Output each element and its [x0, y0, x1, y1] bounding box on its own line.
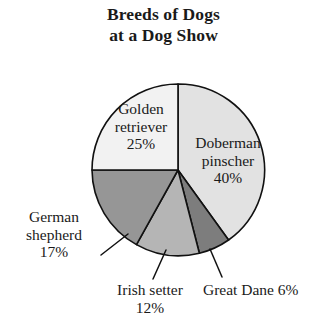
pie-label-golden-retriever-name-1: Golden	[104, 100, 178, 118]
pie-label-german-shepherd: German shepherd 17%	[6, 208, 102, 261]
pie-label-doberman-pinscher: Doberman pinscher 40%	[183, 134, 273, 187]
pie-label-doberman-pinscher-name-1: Doberman	[183, 134, 273, 152]
pie-label-german-shepherd-name-2: shepherd	[6, 226, 102, 244]
pie-label-golden-retriever-name-2: retriever	[104, 118, 178, 136]
pie-label-golden-retriever-percent: 25%	[104, 135, 178, 153]
leader-line-german-shepherd	[101, 234, 128, 255]
leader-line-great-dane	[210, 249, 222, 277]
pie-label-irish-setter-name: Irish setter	[96, 281, 204, 299]
pie-label-german-shepherd-percent: 17%	[6, 243, 102, 261]
pie-label-irish-setter-percent: 12%	[96, 299, 204, 317]
pie-label-great-dane-text: Great Dane 6%	[203, 281, 325, 299]
pie-label-golden-retriever: Golden retriever 25%	[104, 100, 178, 153]
pie-label-doberman-pinscher-name-2: pinscher	[183, 152, 273, 170]
pie-label-doberman-pinscher-percent: 40%	[183, 169, 273, 187]
pie-label-great-dane: Great Dane 6%	[203, 281, 325, 299]
pie-chart-figure: Breeds of Dogs at a Dog Show Golden retr…	[0, 0, 327, 324]
pie-chart-graphic	[0, 0, 327, 324]
pie-label-irish-setter: Irish setter 12%	[96, 281, 204, 316]
pie-label-german-shepherd-name-1: German	[6, 208, 102, 226]
